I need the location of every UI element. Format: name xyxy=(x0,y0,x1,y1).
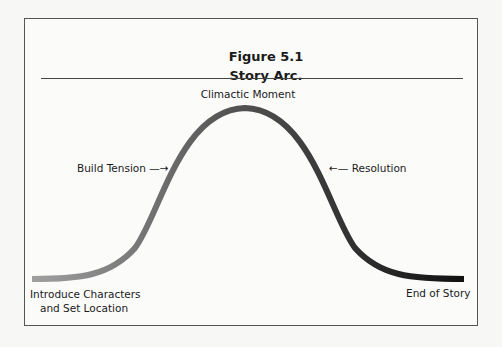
label-resolution: ←— Resolution xyxy=(329,162,407,174)
label-end-of-story: End of Story xyxy=(406,287,471,299)
arrow-left-icon: ←— xyxy=(329,162,348,174)
label-climactic-moment: Climactic Moment xyxy=(190,88,306,100)
start-line-2: and Set Location xyxy=(30,301,138,315)
resolution-text: Resolution xyxy=(352,162,407,174)
arrow-right-icon: —→ xyxy=(149,162,168,174)
label-introduce-characters: Introduce Characters and Set Location xyxy=(30,287,138,315)
build-tension-text: Build Tension xyxy=(77,162,146,174)
start-line-1: Introduce Characters xyxy=(30,287,138,301)
label-build-tension: Build Tension —→ xyxy=(77,162,169,174)
